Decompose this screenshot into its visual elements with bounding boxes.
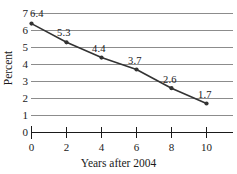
ytick-label-4: 4 [14,59,28,70]
ytick-label-3: 3 [14,76,28,87]
point-value-label-2: 4.4 [92,43,106,54]
ytick-label-0: 0 [14,127,28,138]
y-axis-title: Percent [2,43,14,93]
xtick-label-8: 8 [162,142,182,153]
point-value-label-5: 1.7 [198,89,212,100]
data-point [64,40,68,44]
point-value-label-3: 3.7 [128,55,142,66]
data-point [169,86,173,90]
data-point [204,101,208,105]
xtick-label-2: 2 [57,142,77,153]
data-point [134,67,138,71]
ytick-label-6: 6 [14,25,28,36]
point-value-label-1: 5.3 [57,27,71,38]
point-value-label-4: 2.6 [163,74,177,85]
data-point [99,56,103,60]
ytick-label-2: 2 [14,93,28,104]
x-axis-title: Years after 2004 [0,157,237,169]
ytick-label-7: 7 [14,8,28,19]
xtick-label-10: 10 [197,142,217,153]
xtick-label-0: 0 [22,142,42,153]
line-chart: 7 6 5 4 3 2 1 0 0 2 4 6 8 10 6.4 5.3 4.4… [0,0,237,174]
data-point [29,22,33,26]
xtick-label-4: 4 [92,142,112,153]
point-value-label-0: 6.4 [30,8,44,19]
ytick-label-5: 5 [14,42,28,53]
ytick-label-1: 1 [14,110,28,121]
xtick-label-6: 6 [127,142,147,153]
